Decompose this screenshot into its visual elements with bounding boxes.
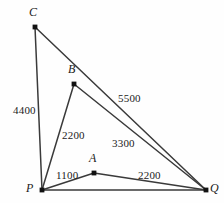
vertex-label-a: A (89, 152, 96, 164)
vertex-label-q: Q (210, 182, 219, 194)
vertex-label-c: C (29, 6, 37, 18)
vertex-label-p: P (26, 182, 33, 194)
edge-p-c (35, 27, 42, 190)
geometry-figure: C B A P Q 4400 2200 5500 3300 1100 2200 (0, 0, 224, 203)
vertex-dot-c (33, 25, 38, 30)
vertex-dot-q (204, 188, 209, 193)
figure-canvas (0, 0, 224, 203)
vertex-dot-p (40, 188, 45, 193)
vertex-dot-b (72, 82, 77, 87)
vertex-dot-a (92, 171, 97, 176)
vertex-label-b: B (68, 63, 75, 75)
edge-c-q (35, 27, 206, 190)
edge-length-label-pb: 2200 (62, 130, 85, 141)
edge-group (35, 27, 206, 190)
edge-length-label-pc: 4400 (13, 105, 36, 116)
edge-length-label-bq: 3300 (112, 138, 135, 149)
edge-length-label-aq: 2200 (138, 170, 161, 181)
edge-length-label-pa: 1100 (56, 170, 78, 181)
edge-length-label-cq: 5500 (118, 93, 141, 104)
